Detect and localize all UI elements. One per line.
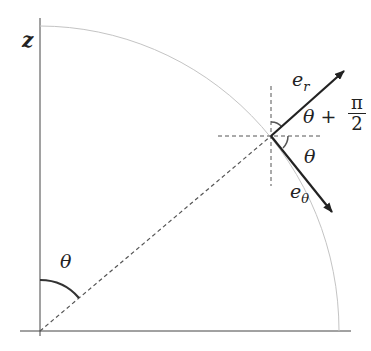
diagram-svg bbox=[0, 0, 371, 351]
e-r-base: e bbox=[292, 68, 303, 90]
z-axis-label: z bbox=[22, 30, 33, 50]
e-theta-sub: θ bbox=[301, 191, 309, 206]
fraction-denominator: 2 bbox=[348, 115, 366, 133]
theta-arc-point bbox=[283, 136, 288, 148]
e-theta-base: e bbox=[290, 180, 301, 202]
spherical-unit-vectors-diagram: z θ er eθ θ + π 2 θ bbox=[0, 0, 371, 351]
theta-plus-label: θ + bbox=[303, 107, 336, 126]
e-theta-label: eθ bbox=[290, 182, 309, 205]
theta-origin-label: θ bbox=[60, 252, 71, 271]
radial-dashed-line bbox=[40, 136, 271, 331]
e-r-label: er bbox=[292, 70, 309, 93]
theta-point-label: θ bbox=[304, 147, 315, 166]
fraction-numerator: π bbox=[348, 94, 366, 112]
theta-arc-origin bbox=[40, 280, 79, 298]
e-r-sub: r bbox=[303, 79, 309, 94]
pi-over-two-fraction: π 2 bbox=[348, 94, 366, 133]
